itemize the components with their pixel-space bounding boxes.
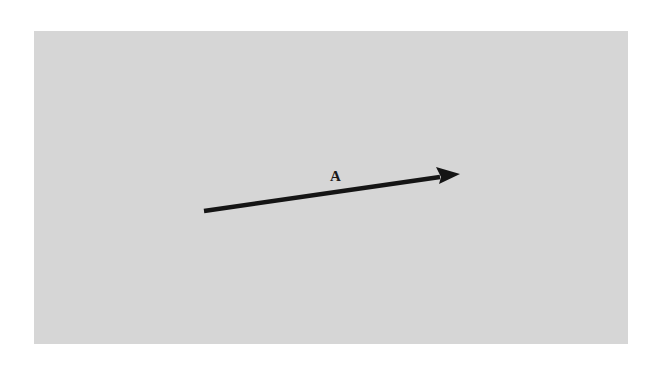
- vector-diagram: A: [0, 0, 656, 366]
- vector-shaft: [204, 177, 440, 211]
- vector-label: A: [330, 168, 341, 184]
